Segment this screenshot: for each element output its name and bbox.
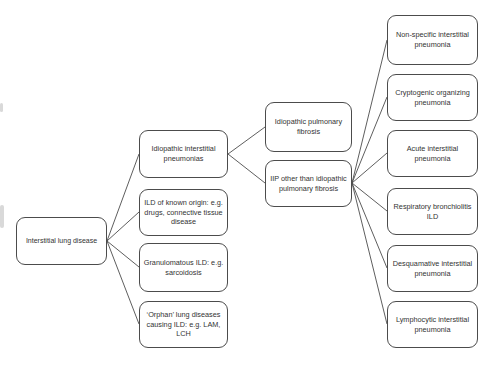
connector [107, 154, 139, 241]
connector [352, 183, 387, 324]
scan-artifact [0, 103, 3, 112]
node-acute-interstitial-pneumonia: Acute interstitial pneumonia [387, 130, 478, 177]
connector [228, 154, 265, 183]
connector [352, 40, 387, 183]
node-interstitial-lung-disease: Interstitial lung disease [16, 217, 107, 265]
node-respiratory-bronchiolitis-ild: Respiratory bronchiolitis ILD [387, 188, 478, 235]
diagram-canvas: Interstitial lung disease Idiopathic int… [0, 0, 502, 369]
node-iip-other-than-ipf: IIP other than idiopathic pulmonary fibr… [265, 160, 352, 207]
node-idiopathic-pulmonary-fibrosis: Idiopathic pulmonary fibrosis [265, 102, 352, 152]
node-orphan-lung-diseases: ‘Orphan’ lung diseases causing ILD: e.g.… [139, 301, 228, 348]
node-ild-known-origin: ILD of known origin: e.g. drugs, connect… [139, 189, 228, 236]
scan-artifact [0, 205, 4, 228]
node-idiopathic-interstitial-pneumonias: Idiopathic interstitial pneumonias [139, 130, 228, 178]
node-cryptogenic-organizing-pneumonia: Cryptogenic organizing pneumonia [387, 74, 478, 121]
connector [107, 212, 139, 241]
node-desquamative-interstitial-pneumonia: Desquamative interstitial pneumonia [387, 245, 478, 292]
node-nonspecific-interstitial-pneumonia: Non-specific interstitial pneumonia [387, 15, 478, 65]
node-lymphocytic-interstitial-pneumonia: Lymphocytic interstitial pneumonia [387, 301, 478, 348]
connector [228, 127, 265, 154]
node-granulomatous-ild: Granulomatous ILD: e.g. sarcoidosis [139, 243, 228, 292]
connector [352, 183, 387, 211]
connector [352, 153, 387, 183]
